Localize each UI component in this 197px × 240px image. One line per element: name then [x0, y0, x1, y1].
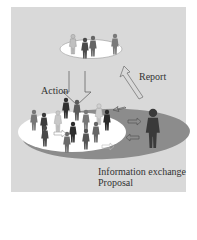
action-label: Action	[41, 85, 68, 96]
top-group-ellipse	[60, 34, 122, 59]
information-exchange-label: Information exchange	[98, 166, 186, 177]
report-label: Report	[139, 71, 166, 82]
proposal-label: Proposal	[98, 177, 133, 188]
